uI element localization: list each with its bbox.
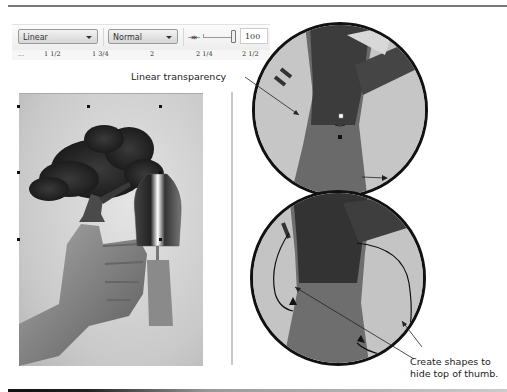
callout-hide-thumb-line2: hide top of thumb. (410, 368, 498, 380)
callout-hide-thumb: Create shapes to hide top of thumb. (410, 356, 498, 380)
callout-hide-thumb-line1: Create shapes to (410, 356, 498, 368)
callout-leaders (0, 0, 507, 392)
